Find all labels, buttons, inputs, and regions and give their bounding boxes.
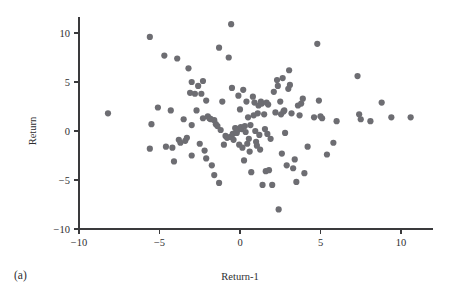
data-point xyxy=(319,115,325,121)
data-point xyxy=(379,99,385,105)
x-axis-title: Return-1 xyxy=(221,271,258,282)
data-point xyxy=(228,21,234,27)
data-point xyxy=(300,96,306,102)
data-point xyxy=(266,167,272,173)
data-point xyxy=(286,67,292,73)
data-point xyxy=(293,179,299,185)
data-point xyxy=(305,144,311,150)
data-point xyxy=(200,78,206,84)
data-point xyxy=(250,94,256,100)
data-point xyxy=(292,156,298,162)
data-point xyxy=(197,141,203,147)
data-point xyxy=(311,114,317,120)
data-point xyxy=(261,111,267,117)
data-point xyxy=(229,85,235,91)
data-point xyxy=(256,132,262,138)
data-point xyxy=(174,55,180,61)
data-point xyxy=(240,87,246,93)
data-point xyxy=(189,79,195,85)
data-point xyxy=(221,142,227,148)
data-point xyxy=(181,116,187,122)
data-point xyxy=(216,45,222,51)
data-point xyxy=(301,170,307,176)
x-tick-label: −10 xyxy=(71,237,87,248)
x-tick-label: 5 xyxy=(318,237,323,248)
data-point xyxy=(105,110,111,116)
data-point xyxy=(275,83,281,89)
data-point xyxy=(334,118,340,124)
data-point xyxy=(243,129,249,135)
data-point xyxy=(189,122,195,128)
data-point xyxy=(316,98,322,104)
scatter-plot: −10−50510−10−50510 Return-1 Return (a) xyxy=(0,0,449,292)
data-point xyxy=(367,118,373,124)
data-point xyxy=(324,151,330,157)
data-point xyxy=(201,148,207,154)
data-point xyxy=(148,121,154,127)
data-point xyxy=(189,152,195,158)
data-point xyxy=(247,148,253,154)
data-point xyxy=(247,122,253,128)
y-tick-label: 0 xyxy=(65,126,70,137)
data-points xyxy=(105,21,414,212)
data-point xyxy=(330,140,336,146)
data-point xyxy=(184,135,190,141)
data-point xyxy=(246,136,252,142)
data-point xyxy=(192,91,198,97)
data-point xyxy=(265,101,271,107)
data-point xyxy=(195,83,201,89)
data-point xyxy=(274,77,280,83)
data-point xyxy=(354,73,360,79)
data-point xyxy=(237,106,243,112)
data-point xyxy=(276,206,282,212)
x-tick-label: −5 xyxy=(154,237,165,248)
data-point xyxy=(171,158,177,164)
data-point xyxy=(281,107,287,113)
data-point xyxy=(230,137,236,143)
data-point xyxy=(169,145,175,151)
data-point xyxy=(280,75,286,81)
data-point xyxy=(203,155,209,161)
figure-panel: −10−50510−10−50510 Return-1 Return (a) xyxy=(0,0,449,292)
data-point xyxy=(267,136,273,142)
y-tick-label: 5 xyxy=(65,77,70,88)
y-tick-label: −10 xyxy=(54,224,70,235)
data-point xyxy=(279,150,285,156)
x-tick-label: 10 xyxy=(396,237,407,248)
data-point xyxy=(272,109,278,115)
y-tick-label: −5 xyxy=(59,175,70,186)
data-point xyxy=(255,110,261,116)
data-point xyxy=(203,98,209,104)
data-point xyxy=(282,130,288,136)
data-point xyxy=(277,99,283,105)
data-point xyxy=(259,182,265,188)
y-tick-label: 10 xyxy=(60,28,71,39)
data-point xyxy=(163,144,169,150)
data-point xyxy=(242,123,248,129)
data-point xyxy=(248,169,254,175)
data-point xyxy=(209,162,215,168)
data-point xyxy=(239,145,245,151)
y-axis-title: Return xyxy=(27,116,38,145)
data-point xyxy=(193,107,199,113)
data-point xyxy=(245,114,251,120)
data-point xyxy=(358,116,364,122)
data-point xyxy=(168,107,174,113)
data-point xyxy=(161,52,167,58)
data-point xyxy=(243,99,249,105)
data-point xyxy=(269,182,275,188)
data-point xyxy=(241,157,247,163)
data-point xyxy=(155,104,161,110)
data-point xyxy=(147,34,153,40)
data-point xyxy=(185,65,191,71)
data-point xyxy=(296,112,302,118)
data-point xyxy=(288,110,294,116)
data-point xyxy=(219,99,225,105)
data-point xyxy=(198,91,204,97)
axes xyxy=(79,17,433,229)
data-point xyxy=(388,114,394,120)
data-point xyxy=(147,146,153,152)
data-point xyxy=(284,162,290,168)
data-point xyxy=(211,172,217,178)
data-point xyxy=(216,180,222,186)
